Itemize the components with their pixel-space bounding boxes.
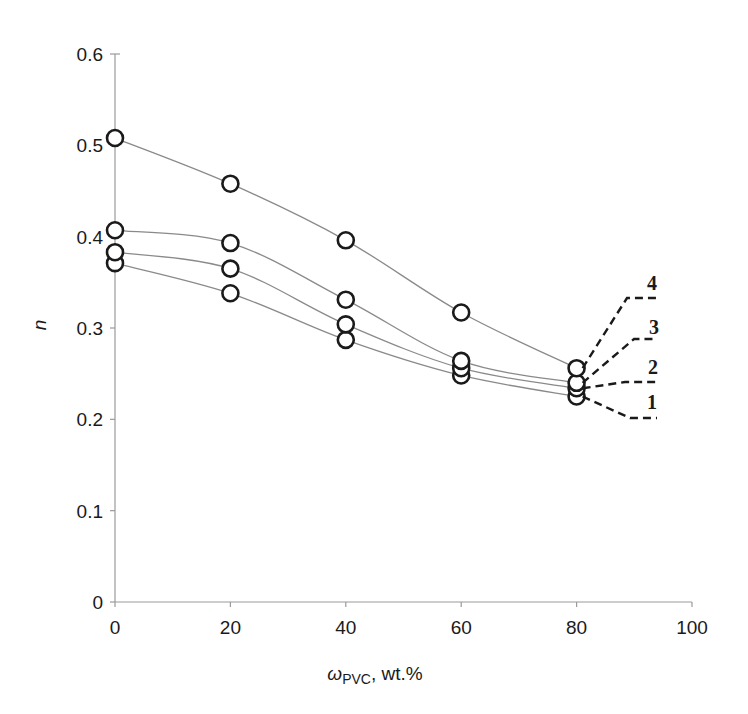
data-point-marker [222, 176, 238, 192]
data-point-marker [338, 292, 354, 308]
data-point-marker [107, 222, 123, 238]
axes [115, 54, 692, 602]
x-tick-label: 100 [676, 617, 708, 638]
data-point-marker [222, 235, 238, 251]
leader-line-2 [583, 382, 657, 388]
x-tick-label: 60 [451, 617, 472, 638]
x-tick-label: 40 [335, 617, 356, 638]
y-tick-label: 0.1 [77, 501, 103, 522]
series-lines [115, 138, 577, 396]
data-point-marker [107, 130, 123, 146]
series-markers [107, 130, 585, 404]
line-chart: 00.10.20.30.40.50.6 020406080100 1234 n … [0, 0, 748, 714]
data-point-marker [453, 304, 469, 320]
series-label-1: 1 [647, 391, 657, 413]
x-axis-title-subscript: PVC [342, 671, 371, 687]
data-point-marker [569, 360, 585, 376]
data-point-marker [107, 244, 123, 260]
series-label-4: 4 [647, 272, 657, 294]
y-tick-label: 0.3 [77, 318, 103, 339]
series-label-3: 3 [649, 316, 659, 338]
data-point-marker [338, 332, 354, 348]
x-axis-ticks: 020406080100 [110, 602, 708, 638]
x-axis-title-symbol: ω [327, 663, 342, 684]
x-axis-title-unit: , wt.% [371, 663, 423, 684]
leader-line-1 [583, 397, 657, 419]
y-axis-title: n [29, 320, 50, 331]
series-leader-lines: 1234 [583, 272, 659, 418]
data-point-marker [338, 232, 354, 248]
data-point-marker [222, 285, 238, 301]
y-tick-label: 0.2 [77, 409, 103, 430]
leader-line-3 [583, 339, 657, 383]
y-tick-label: 0 [92, 592, 103, 613]
x-tick-label: 0 [110, 617, 121, 638]
y-tick-label: 0.6 [77, 44, 103, 65]
y-axis-ticks: 00.10.20.30.40.50.6 [77, 44, 115, 613]
x-tick-label: 20 [220, 617, 241, 638]
data-point-marker [222, 261, 238, 277]
y-tick-label: 0.5 [77, 135, 103, 156]
x-tick-label: 80 [566, 617, 587, 638]
leader-line-4 [583, 298, 657, 368]
y-tick-label: 0.4 [77, 227, 104, 248]
series-label-2: 2 [648, 356, 658, 378]
data-point-marker [338, 316, 354, 332]
data-point-marker [453, 353, 469, 369]
x-axis-title: ωPVC, wt.% [327, 663, 422, 687]
